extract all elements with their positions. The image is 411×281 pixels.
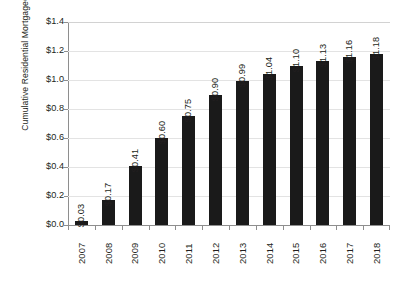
x-axis-tick-label: 2008: [104, 243, 113, 264]
plot-area: $0.03$0.17$0.41$0.60$0.75$0.90$0.99$1.04…: [68, 22, 390, 225]
y-axis-tick-labels: $0.0$0.2$0.4$0.6$0.8$1.0$1.2$1.4: [30, 22, 64, 225]
y-axis-tick-label: $0.0: [32, 220, 64, 229]
y-axis-tick-label: $1.4: [32, 17, 64, 26]
bar: [263, 74, 276, 225]
x-axis-tick-label: 2011: [184, 243, 193, 264]
bar: [343, 57, 356, 225]
bar-value-label: $0.90: [211, 77, 220, 101]
bar-value-label: $0.17: [104, 183, 113, 207]
x-axis-tick-label: 2016: [318, 243, 327, 264]
x-axis-tick-mark: [283, 226, 284, 230]
bar-value-label: $0.03: [77, 203, 86, 227]
y-axis-title-line-1: Cumulative Residential Mortgage: [20, 1, 31, 131]
x-axis-tick-mark: [175, 226, 176, 230]
x-axis-tick-label: 2012: [211, 243, 220, 264]
x-axis-tick-mark: [122, 226, 123, 230]
bar: [370, 54, 383, 225]
gridline: [68, 138, 390, 139]
gridline: [68, 109, 390, 110]
bar-value-label: $0.60: [157, 121, 166, 145]
x-axis-tick-mark: [229, 226, 230, 230]
x-axis-tick-mark: [389, 226, 390, 230]
bar: [236, 81, 249, 225]
gridline: [68, 51, 390, 52]
x-axis-tick-label: 2007: [77, 243, 86, 264]
x-axis-tick-label: 2015: [291, 243, 300, 264]
y-axis-tick-label: $1.2: [32, 46, 64, 55]
x-axis-tick-mark: [68, 226, 69, 230]
bar-value-label: $1.16: [345, 40, 354, 64]
bar: [155, 138, 168, 225]
x-axis-tick-mark: [202, 226, 203, 230]
x-axis-tick-mark: [149, 226, 150, 230]
bar-value-label: $0.75: [184, 99, 193, 123]
y-axis-tick-label: $1.0: [32, 75, 64, 84]
bar-value-label: $0.99: [238, 64, 247, 88]
gridline: [68, 22, 390, 23]
bar-value-label: $1.10: [291, 48, 300, 72]
y-axis-tick-label: $0.8: [32, 104, 64, 113]
y-axis-tick-label: $0.6: [32, 133, 64, 142]
x-axis-tick-mark: [310, 226, 311, 230]
bar: [316, 61, 329, 225]
x-axis-tick-mark: [95, 226, 96, 230]
x-axis-tick-label: 2009: [130, 243, 139, 264]
x-axis-tick-marks: [68, 226, 390, 231]
x-axis-tick-mark: [363, 226, 364, 230]
x-axis-tick-label: 2010: [157, 243, 166, 264]
x-axis-tick-label: 2018: [372, 243, 381, 264]
bar-value-label: $1.18: [372, 37, 381, 61]
x-axis-tick-labels: 2007200820092010201120122013201420152016…: [68, 233, 390, 281]
bar-value-label: $1.13: [318, 44, 327, 68]
gridline: [68, 196, 390, 197]
bar-chart: Cumulative Residential Mortgage Charge-O…: [0, 0, 411, 281]
x-axis-tick-mark: [256, 226, 257, 230]
y-axis-title-line-2: Charge-Offs (trillions): [20, 0, 31, 1]
y-axis-tick-label: $0.2: [32, 191, 64, 200]
bar: [290, 66, 303, 226]
bar: [129, 166, 142, 225]
bar-value-label: $1.04: [265, 57, 274, 81]
x-axis-tick-label: 2013: [238, 243, 247, 264]
x-axis-tick-mark: [336, 226, 337, 230]
x-axis-tick-label: 2014: [265, 243, 274, 264]
y-axis-tick-label: $0.4: [32, 162, 64, 171]
bar: [182, 116, 195, 225]
bar-value-label: $0.41: [130, 148, 139, 172]
x-axis-tick-label: 2017: [345, 243, 354, 264]
gridline: [68, 167, 390, 168]
gridline: [68, 80, 390, 81]
bar: [209, 95, 222, 226]
